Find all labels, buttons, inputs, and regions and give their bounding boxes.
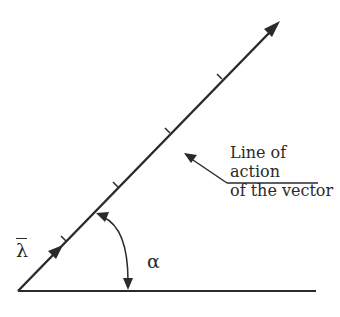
angle-label: α bbox=[147, 250, 160, 272]
angle-arc bbox=[103, 217, 128, 281]
annotation-leader-diagonal bbox=[190, 158, 227, 183]
tick-mark bbox=[165, 128, 170, 133]
tick-mark bbox=[217, 74, 222, 79]
tick-mark bbox=[61, 236, 66, 241]
annotation-line-1: Line of action bbox=[230, 143, 340, 181]
unit-vector-label: λ bbox=[16, 239, 28, 261]
line-of-action-annotation: Line of action of the vector bbox=[230, 143, 340, 200]
angle-arrowhead-top-icon bbox=[96, 212, 109, 222]
vector-line-of-action-diagram: Line of action of the vector λ α bbox=[0, 0, 340, 317]
tick-mark bbox=[113, 182, 118, 187]
angle-arrowhead-bottom-icon bbox=[123, 278, 133, 290]
annotation-line-2: of the vector bbox=[230, 181, 340, 200]
